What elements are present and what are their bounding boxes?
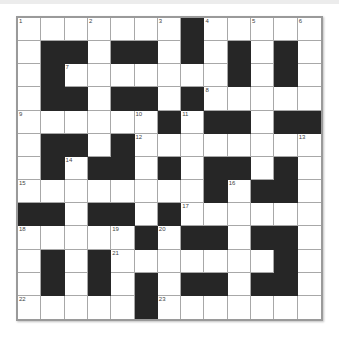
grid-cell[interactable] — [41, 111, 64, 134]
grid-cell[interactable] — [228, 134, 251, 157]
grid-cell[interactable] — [181, 157, 204, 180]
grid-cell[interactable] — [88, 64, 111, 87]
grid-cell[interactable] — [88, 296, 111, 319]
grid-cell[interactable] — [65, 226, 88, 249]
grid-cell[interactable] — [65, 180, 88, 203]
grid-cell[interactable]: 5 — [251, 18, 274, 41]
grid-cell[interactable]: 14 — [65, 157, 88, 180]
grid-cell[interactable]: 11 — [181, 111, 204, 134]
grid-cell[interactable] — [65, 273, 88, 296]
grid-cell[interactable] — [65, 296, 88, 319]
grid-cell[interactable] — [251, 157, 274, 180]
grid-cell[interactable] — [181, 250, 204, 273]
grid-cell[interactable] — [204, 250, 227, 273]
grid-cell[interactable] — [18, 87, 41, 110]
grid-cell[interactable] — [111, 18, 134, 41]
grid-cell[interactable] — [135, 64, 158, 87]
grid-cell[interactable] — [181, 134, 204, 157]
grid-cell[interactable] — [251, 203, 274, 226]
grid-cell[interactable]: 8 — [204, 87, 227, 110]
grid-cell[interactable] — [204, 296, 227, 319]
grid-cell[interactable]: 12 — [135, 134, 158, 157]
grid-cell[interactable] — [158, 250, 181, 273]
grid-cell[interactable] — [181, 64, 204, 87]
grid-cell[interactable]: 2 — [88, 18, 111, 41]
grid-cell[interactable] — [251, 64, 274, 87]
grid-cell[interactable] — [228, 203, 251, 226]
grid-cell[interactable] — [88, 226, 111, 249]
grid-cell[interactable]: 19 — [111, 226, 134, 249]
grid-cell[interactable] — [251, 41, 274, 64]
grid-cell[interactable] — [204, 64, 227, 87]
grid-cell[interactable] — [158, 180, 181, 203]
grid-cell[interactable] — [135, 250, 158, 273]
grid-cell[interactable] — [88, 111, 111, 134]
grid-cell[interactable] — [111, 273, 134, 296]
grid-cell[interactable] — [228, 250, 251, 273]
grid-cell[interactable]: 1 — [18, 18, 41, 41]
grid-cell[interactable] — [181, 180, 204, 203]
grid-cell[interactable] — [41, 18, 64, 41]
grid-cell[interactable]: 13 — [298, 134, 321, 157]
grid-cell[interactable] — [65, 250, 88, 273]
grid-cell[interactable] — [18, 41, 41, 64]
grid-cell[interactable] — [181, 296, 204, 319]
grid-cell[interactable] — [158, 134, 181, 157]
grid-cell[interactable] — [111, 111, 134, 134]
grid-cell[interactable] — [298, 157, 321, 180]
grid-cell[interactable] — [135, 157, 158, 180]
grid-cell[interactable] — [298, 87, 321, 110]
grid-cell[interactable] — [274, 87, 297, 110]
grid-cell[interactable]: 23 — [158, 296, 181, 319]
grid-cell[interactable] — [228, 87, 251, 110]
grid-cell[interactable] — [88, 87, 111, 110]
grid-cell[interactable] — [204, 203, 227, 226]
grid-cell[interactable] — [88, 180, 111, 203]
grid-cell[interactable] — [65, 111, 88, 134]
grid-cell[interactable] — [228, 296, 251, 319]
grid-cell[interactable]: 15 — [18, 180, 41, 203]
grid-cell[interactable] — [251, 111, 274, 134]
grid-cell[interactable] — [135, 18, 158, 41]
grid-cell[interactable] — [135, 203, 158, 226]
grid-cell[interactable] — [111, 296, 134, 319]
grid-cell[interactable] — [65, 18, 88, 41]
grid-cell[interactable] — [298, 180, 321, 203]
grid-cell[interactable] — [251, 296, 274, 319]
grid-cell[interactable] — [228, 273, 251, 296]
grid-cell[interactable]: 20 — [158, 226, 181, 249]
grid-cell[interactable] — [18, 250, 41, 273]
grid-cell[interactable] — [158, 273, 181, 296]
grid-cell[interactable]: 21 — [111, 250, 134, 273]
grid-cell[interactable] — [251, 87, 274, 110]
grid-cell[interactable]: 6 — [298, 18, 321, 41]
grid-cell[interactable] — [298, 203, 321, 226]
grid-cell[interactable]: 18 — [18, 226, 41, 249]
grid-cell[interactable]: 3 — [158, 18, 181, 41]
grid-cell[interactable] — [18, 134, 41, 157]
grid-cell[interactable] — [41, 296, 64, 319]
grid-cell[interactable] — [228, 226, 251, 249]
grid-cell[interactable] — [251, 134, 274, 157]
grid-cell[interactable] — [274, 203, 297, 226]
grid-cell[interactable] — [18, 64, 41, 87]
grid-cell[interactable] — [204, 134, 227, 157]
grid-cell[interactable] — [18, 157, 41, 180]
grid-cell[interactable] — [158, 41, 181, 64]
grid-cell[interactable] — [274, 18, 297, 41]
grid-cell[interactable] — [18, 273, 41, 296]
grid-cell[interactable]: 22 — [18, 296, 41, 319]
grid-cell[interactable] — [41, 226, 64, 249]
grid-cell[interactable] — [158, 64, 181, 87]
grid-cell[interactable]: 9 — [18, 111, 41, 134]
grid-cell[interactable]: 7 — [65, 64, 88, 87]
grid-cell[interactable] — [41, 180, 64, 203]
grid-cell[interactable]: 4 — [204, 18, 227, 41]
grid-cell[interactable] — [298, 250, 321, 273]
grid-cell[interactable] — [298, 41, 321, 64]
grid-cell[interactable] — [298, 226, 321, 249]
grid-cell[interactable] — [111, 64, 134, 87]
grid-cell[interactable] — [158, 87, 181, 110]
grid-cell[interactable] — [298, 296, 321, 319]
grid-cell[interactable] — [251, 250, 274, 273]
